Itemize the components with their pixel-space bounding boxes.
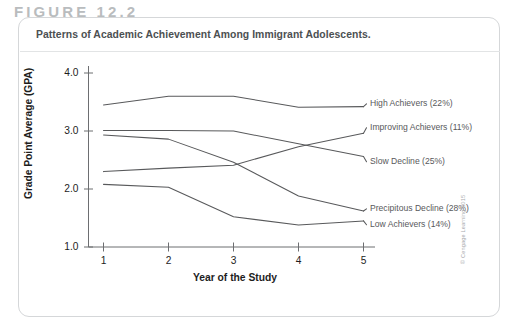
figure-caption: Patterns of Academic Achievement Among I… [36, 29, 371, 40]
figure-card: Patterns of Academic Achievement Among I… [18, 17, 500, 317]
figure-container: FIGURE 12.2 Patterns of Academic Achieve… [0, 0, 520, 334]
caption-divider [20, 51, 500, 52]
